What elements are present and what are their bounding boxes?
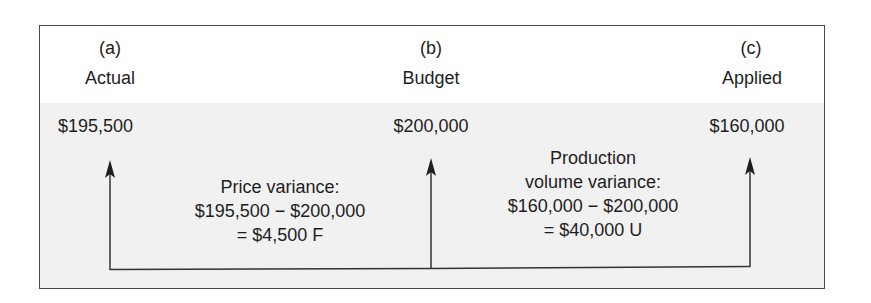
price-variance-result: = $4,500 F — [195, 223, 366, 247]
price-variance-block: Price variance: $195,500 − $200,000 = $4… — [195, 175, 366, 247]
baseline-connector — [110, 267, 750, 270]
volume-variance-result: = $40,000 U — [508, 218, 679, 242]
volume-variance-title-1: Production — [508, 146, 679, 170]
price-variance-title: Price variance: — [195, 175, 366, 199]
volume-variance-title-2: volume variance: — [508, 170, 679, 194]
volume-variance-block: Production volume variance: $160,000 − $… — [508, 146, 679, 242]
price-variance-formula: $195,500 − $200,000 — [195, 199, 366, 223]
arrow-connectors — [0, 0, 871, 303]
volume-variance-formula: $160,000 − $200,000 — [508, 194, 679, 218]
